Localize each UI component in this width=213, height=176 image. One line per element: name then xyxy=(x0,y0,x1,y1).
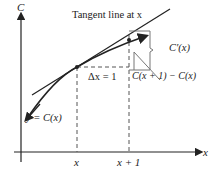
point-x1 xyxy=(127,38,131,42)
point-x xyxy=(75,65,79,69)
x-axis-label: x xyxy=(203,147,208,158)
tangent-label: Tangent line at x xyxy=(72,10,142,21)
cost-curve xyxy=(28,36,146,117)
curve-label: y = C(x) xyxy=(26,113,62,124)
derivative-label: C′(x) xyxy=(169,43,190,54)
y-axis-label: C xyxy=(17,2,24,13)
diagram-canvas xyxy=(0,0,213,176)
difference-label: C(x + 1) − C(x) xyxy=(132,71,196,81)
marginal-cost-diagram: C x Tangent line at x Δx = 1 C′(x) C(x +… xyxy=(0,0,213,176)
delta-x-label: Δx = 1 xyxy=(88,72,116,83)
tick-x1-label: x + 1 xyxy=(117,157,140,168)
tick-x-label: x xyxy=(74,157,79,168)
derivative-bracket xyxy=(129,31,153,70)
